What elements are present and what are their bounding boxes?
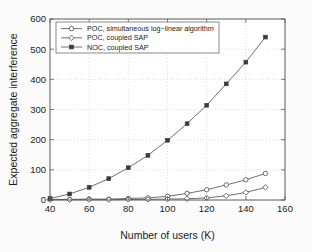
data-point-marker: [205, 103, 209, 107]
interference-vs-users-chart: 406080100120140160 0100200300400500600 N…: [0, 0, 312, 252]
y-tick-label: 200: [30, 134, 46, 145]
data-point-marker: [69, 26, 73, 30]
data-point-marker: [68, 192, 72, 196]
data-point-marker: [126, 166, 130, 170]
legend-label: POC, coupled SAP: [87, 33, 148, 42]
x-tick-label: 100: [160, 203, 176, 214]
figure-container: 406080100120140160 0100200300400500600 N…: [0, 0, 312, 252]
data-point-marker: [224, 82, 228, 86]
y-axis-title: Expected aggregate interference: [7, 33, 19, 186]
y-tick-label: 400: [30, 74, 46, 85]
data-point-marker: [107, 177, 111, 181]
data-point-marker: [146, 153, 150, 157]
x-tick-label: 60: [84, 203, 95, 214]
data-point-marker: [224, 183, 228, 187]
x-tick-label: 120: [199, 203, 215, 214]
x-tick-label: 160: [277, 203, 293, 214]
x-tick-label: 40: [45, 203, 56, 214]
data-point-marker: [166, 138, 170, 142]
y-tick-label: 100: [30, 164, 46, 175]
data-point-marker: [204, 188, 208, 192]
x-tick-label: 140: [238, 203, 254, 214]
legend-label: POC, simultaneous log−linear algorithm: [87, 24, 214, 33]
y-tick-label: 500: [30, 44, 46, 55]
data-point-marker: [263, 171, 267, 175]
data-point-marker: [185, 122, 189, 126]
data-point-marker: [244, 60, 248, 64]
data-point-marker: [70, 45, 74, 49]
data-point-marker: [87, 185, 91, 189]
y-tick-label: 300: [30, 104, 46, 115]
data-point-marker: [185, 191, 189, 195]
x-axis-title: Number of users (K): [120, 229, 215, 241]
x-tick-label: 80: [123, 203, 134, 214]
legend-label: NOC, coupled SAP: [87, 43, 149, 52]
chart-legend[interactable]: POC, simultaneous log−linear algorithmPO…: [56, 22, 219, 53]
y-tick-label: 0: [41, 194, 46, 205]
data-point-marker: [264, 35, 268, 39]
y-tick-label: 600: [30, 13, 46, 24]
data-point-marker: [244, 178, 248, 182]
